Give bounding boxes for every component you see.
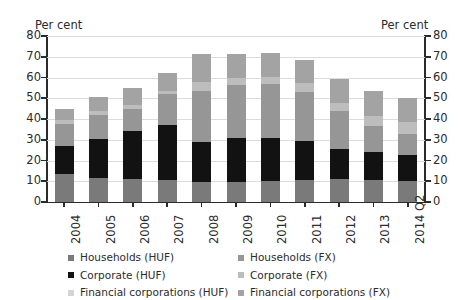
bar-segment xyxy=(364,116,383,126)
legend-item[interactable]: Households (HUF) xyxy=(68,250,228,265)
y-tick-right xyxy=(426,97,431,99)
y-axis-unit-label-right: Per cent xyxy=(381,18,428,32)
x-tick xyxy=(132,202,134,207)
x-axis-tick-label: 2011 xyxy=(310,215,324,244)
y-tick-left xyxy=(41,56,46,58)
legend-swatch-icon xyxy=(68,255,74,261)
legend-item[interactable]: Corporate (FX) xyxy=(238,268,390,283)
y-axis-tick-label: 20 xyxy=(15,155,41,167)
chart-legend: Households (HUF)Corporate (HUF)Financial… xyxy=(0,250,462,298)
x-axis-tick-label: 2014 Q2 xyxy=(413,195,427,244)
y-tick-left xyxy=(41,180,46,182)
bar-segment xyxy=(123,179,142,202)
bar-segment xyxy=(123,88,142,105)
bar-2007[interactable] xyxy=(158,73,177,202)
legend-item[interactable]: Financial corporations (HUF) xyxy=(68,285,228,300)
bar-segment xyxy=(227,138,246,183)
legend-label: Corporate (FX) xyxy=(250,270,327,281)
legend-label: Financial corporations (HUF) xyxy=(80,287,228,298)
x-tick xyxy=(166,202,168,207)
y-tick-left xyxy=(41,77,46,79)
y-axis-unit-label-left: Per cent xyxy=(35,18,82,32)
y-axis-tick-label: 50 xyxy=(433,92,459,104)
bar-2005[interactable] xyxy=(89,97,108,202)
y-tick-left xyxy=(41,139,46,141)
x-tick xyxy=(407,202,409,207)
bar-segment xyxy=(295,83,314,92)
y-axis-tick-label: 80 xyxy=(15,30,41,42)
bar-segment xyxy=(364,126,383,152)
bar-2010[interactable] xyxy=(261,53,280,202)
y-tick-left xyxy=(41,160,46,162)
bar-segment xyxy=(123,131,142,179)
bar-segment xyxy=(55,124,74,146)
bar-segment xyxy=(295,141,314,180)
bar-segment xyxy=(55,109,74,120)
plot-area xyxy=(47,36,425,202)
bar-segment xyxy=(398,134,417,156)
bar-segment xyxy=(364,91,383,116)
y-axis-tick-label: 80 xyxy=(433,30,459,42)
y-axis-tick-label: 40 xyxy=(15,113,41,125)
bar-segment xyxy=(89,178,108,202)
bar-segment xyxy=(261,77,280,84)
y-axis-tick-label: 30 xyxy=(15,134,41,146)
x-tick xyxy=(63,202,65,207)
legend-item[interactable]: Corporate (HUF) xyxy=(68,268,228,283)
y-axis-tick-label: 70 xyxy=(433,51,459,63)
bar-2011[interactable] xyxy=(295,60,314,202)
gridline xyxy=(47,36,425,37)
bar-2013[interactable] xyxy=(364,91,383,202)
x-axis-tick-label: 2012 xyxy=(344,215,358,244)
y-tick-left xyxy=(41,118,46,120)
y-axis-tick-label: 60 xyxy=(433,72,459,84)
bar-segment xyxy=(192,182,211,202)
bar-segment xyxy=(55,174,74,202)
bar-segment xyxy=(295,92,314,141)
legend-item[interactable]: Financial corporations (FX) xyxy=(238,285,390,300)
bar-2004[interactable] xyxy=(55,109,74,202)
bar-segment xyxy=(192,91,211,142)
bar-segment xyxy=(261,181,280,202)
y-axis-tick-label: 60 xyxy=(15,72,41,84)
bar-segment xyxy=(364,152,383,180)
y-tick-left xyxy=(41,97,46,99)
legend-column-fx: Households (FX)Corporate (FX)Financial c… xyxy=(238,250,390,300)
legend-swatch-icon xyxy=(238,272,244,278)
x-axis-tick-label: 2007 xyxy=(172,215,186,244)
bar-segment xyxy=(261,84,280,138)
bar-2008[interactable] xyxy=(192,54,211,202)
legend-item[interactable]: Households (FX) xyxy=(238,250,390,265)
bar-segment xyxy=(192,142,211,182)
bar-2006[interactable] xyxy=(123,88,142,202)
y-tick-right xyxy=(426,56,431,58)
bar-segment xyxy=(398,98,417,122)
bar-2014-Q2[interactable] xyxy=(398,98,417,202)
bar-segment xyxy=(227,78,246,85)
legend-swatch-icon xyxy=(238,255,244,261)
x-axis-tick-label: 2005 xyxy=(104,215,118,244)
legend-label: Financial corporations (FX) xyxy=(250,287,390,298)
y-axis-tick-label: 30 xyxy=(433,134,459,146)
stacked-bar-chart: Per cent Per cent 01020304050607080 0102… xyxy=(0,0,462,300)
legend-column-huf: Households (HUF)Corporate (HUF)Financial… xyxy=(68,250,228,300)
x-axis-tick-label: 2008 xyxy=(207,215,221,244)
x-axis-tick-label: 2010 xyxy=(275,215,289,244)
y-axis-tick-label: 10 xyxy=(15,175,41,187)
x-axis-tick-label: 2009 xyxy=(241,215,255,244)
y-axis-tick-label: 0 xyxy=(15,196,41,208)
bar-segment xyxy=(55,146,74,174)
bar-segment xyxy=(330,111,349,149)
legend-swatch-icon xyxy=(238,290,244,296)
bar-segment xyxy=(89,139,108,178)
y-axis-tick-label: 50 xyxy=(15,92,41,104)
y-axis-tick-label: 40 xyxy=(433,113,459,125)
bar-segment xyxy=(158,180,177,202)
y-axis-tick-label: 20 xyxy=(433,155,459,167)
bar-segment xyxy=(261,138,280,182)
bar-2012[interactable] xyxy=(330,79,349,202)
bar-segment xyxy=(158,73,177,91)
bar-segment xyxy=(330,149,349,179)
y-axis-tick-label: 10 xyxy=(433,175,459,187)
bar-2009[interactable] xyxy=(227,54,246,202)
